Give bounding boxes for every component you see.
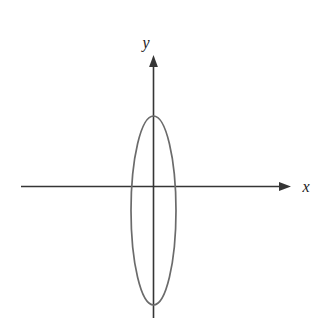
figure-canvas: y x [0,0,323,326]
coordinate-plane-graphic: y x [0,0,323,326]
x-axis [21,182,291,191]
x-axis-arrowhead [279,182,291,191]
x-axis-label: x [301,178,309,195]
y-axis-arrowhead [149,55,158,67]
y-axis-label: y [140,34,150,52]
